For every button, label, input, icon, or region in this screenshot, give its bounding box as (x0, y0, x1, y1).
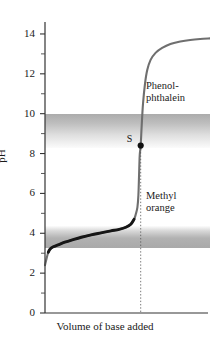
titration-curve-figure: 14121086420 pH Volume of base added Phen… (0, 0, 210, 341)
y-axis-tick-label: 10 (13, 108, 35, 119)
y-axis-tick-label: 14 (13, 28, 35, 39)
phenolphthalein-annotation-line2: phthalein (146, 92, 185, 104)
y-axis-tick-label: 8 (13, 148, 35, 159)
y-axis-title: pH (0, 149, 7, 162)
methyl-orange-annotation-line1: Methyl (146, 190, 176, 202)
equivalence-point-label: S (127, 133, 133, 144)
axes-svg (0, 0, 210, 341)
y-axis-tick-label: 0 (13, 307, 35, 318)
y-axis-tick-label: 6 (13, 187, 35, 198)
y-axis-tick-label: 4 (13, 227, 35, 238)
x-axis-title: Volume of base added (0, 320, 210, 332)
methyl-orange-annotation-line2: orange (146, 202, 176, 214)
y-axis-tick-label: 2 (13, 267, 35, 278)
y-axis-tick-label: 12 (13, 68, 35, 79)
phenolphthalein-annotation-line1: Phenol- (146, 80, 185, 92)
phenolphthalein-annotation: Phenol- phthalein (146, 80, 185, 104)
methyl-orange-annotation: Methyl orange (146, 190, 176, 214)
